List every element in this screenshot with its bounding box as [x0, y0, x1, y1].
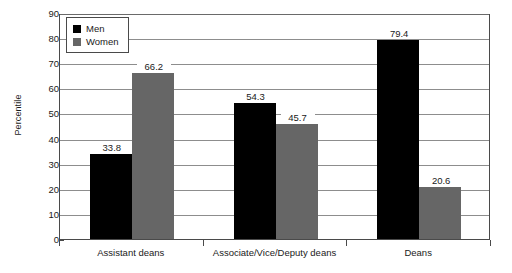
legend: Men Women: [66, 17, 129, 53]
legend-label-women: Women: [86, 37, 119, 47]
gridline: [60, 89, 489, 90]
bar-women: [276, 124, 318, 239]
bar-women: [132, 73, 174, 239]
bar-value-label: 79.4: [382, 29, 416, 39]
gridline: [60, 14, 489, 15]
x-tick-mark: [490, 240, 491, 246]
bar-value-label: 54.3: [239, 92, 273, 102]
bar-men: [377, 40, 419, 239]
legend-item-women: Women: [73, 35, 119, 48]
legend-item-men: Men: [73, 22, 119, 35]
y-tick-label: 40: [11, 135, 59, 145]
y-tick-label: 90: [11, 9, 59, 19]
bar-value-label: 20.6: [424, 176, 458, 186]
men-swatch-icon: [73, 25, 81, 33]
legend-label-men: Men: [86, 24, 104, 34]
y-tick-label: 60: [11, 85, 59, 95]
women-swatch-icon: [73, 38, 81, 46]
x-tick-mark: [346, 240, 347, 246]
x-tick-mark: [59, 240, 60, 246]
y-axis-ticks: 0102030405060708090: [0, 14, 59, 240]
y-tick-label: 30: [11, 160, 59, 170]
bar-men: [90, 154, 132, 239]
y-tick-label: 10: [11, 210, 59, 220]
y-tick-label: 50: [11, 110, 59, 120]
bar-value-label: 33.8: [95, 143, 129, 153]
y-tick-label: 70: [11, 59, 59, 69]
bar-value-label: 45.7: [281, 113, 315, 123]
gridline: [60, 64, 489, 65]
y-tick-label: 0: [11, 235, 59, 245]
bar-chart: Percentile 0102030405060708090 33.866.25…: [0, 0, 512, 273]
bar-women: [419, 187, 461, 239]
y-tick-label: 80: [11, 34, 59, 44]
bar-value-label: 66.2: [137, 62, 171, 72]
x-tick-label: Deans: [328, 248, 508, 258]
y-tick-label: 20: [11, 185, 59, 195]
bar-men: [234, 103, 276, 239]
x-tick-mark: [203, 240, 204, 246]
